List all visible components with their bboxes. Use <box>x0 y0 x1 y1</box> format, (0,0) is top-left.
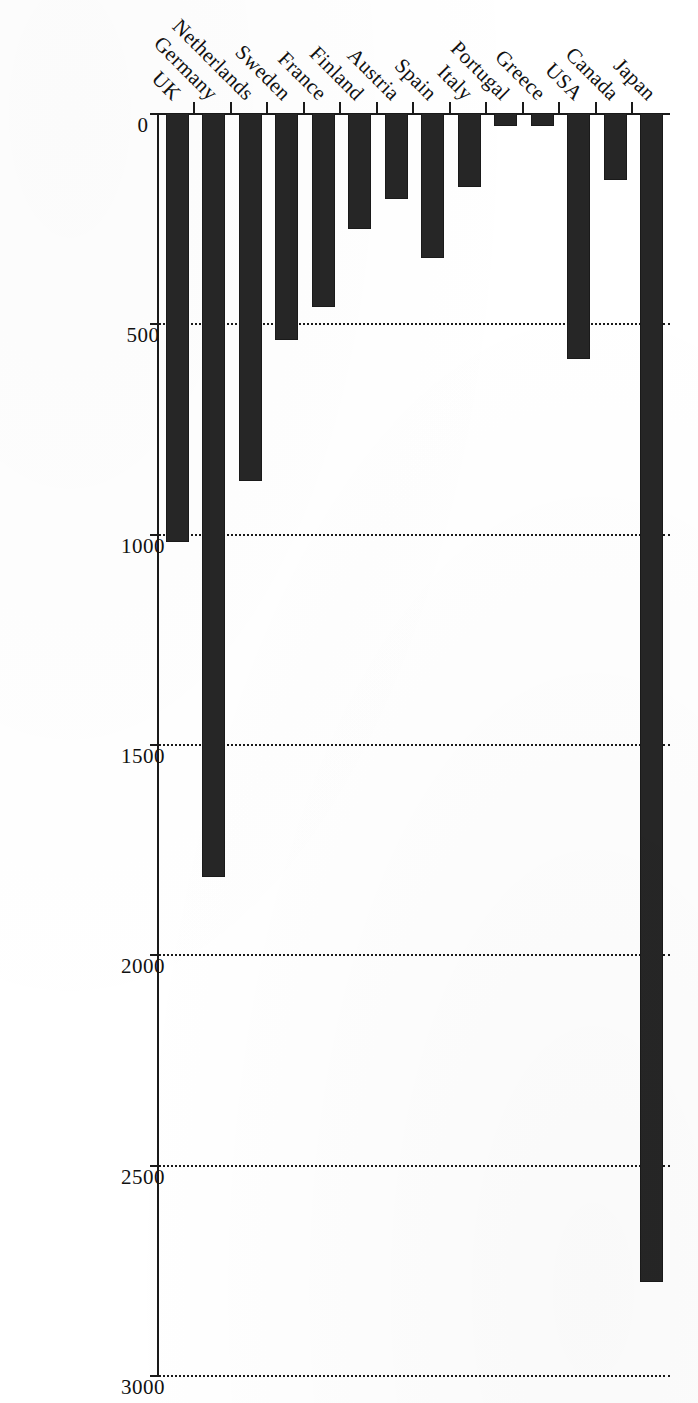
value-tick-label-500: 500 <box>127 323 160 348</box>
category-tick-4 <box>303 102 305 113</box>
bar-italy <box>458 113 481 187</box>
category-tick-7 <box>413 102 415 113</box>
rotated-chart-canvas: 300025002000150010005000 UKGermanyNether… <box>0 0 698 1403</box>
bar-chart: 300025002000150010005000 UKGermanyNether… <box>0 0 698 1403</box>
category-tick-12 <box>595 102 597 113</box>
bar-austria <box>385 113 408 199</box>
category-tick-8 <box>449 102 451 113</box>
bar-usa <box>567 113 590 359</box>
bar-germany <box>202 113 225 877</box>
chart-page: 300025002000150010005000 UKGermanyNether… <box>0 0 698 1403</box>
gridline-3000 <box>159 1375 670 1377</box>
category-tick-10 <box>522 102 524 113</box>
category-tick-13 <box>632 102 634 113</box>
value-tick-label-3000: 3000 <box>121 1375 165 1400</box>
gridline-2000 <box>159 954 670 956</box>
bar-sweden <box>275 113 298 340</box>
bar-spain <box>421 113 444 258</box>
bar-japan <box>640 113 663 1282</box>
category-tick-3 <box>267 102 269 113</box>
value-tick-label-1000: 1000 <box>121 534 165 559</box>
category-tick-2 <box>230 102 232 113</box>
bar-netherlands <box>239 113 262 481</box>
category-label-japan: Japan <box>608 53 661 106</box>
category-tick-9 <box>486 102 488 113</box>
gridline-1500 <box>159 744 670 746</box>
category-tick-1 <box>194 102 196 113</box>
value-tick-label-0: 0 <box>138 113 149 138</box>
value-tick-label-1500: 1500 <box>121 744 165 769</box>
bar-uk <box>166 113 189 542</box>
bar-canada <box>604 113 627 180</box>
bar-portugal <box>494 113 517 126</box>
bar-finland <box>348 113 371 229</box>
gridline-500 <box>159 323 670 325</box>
gridline-2500 <box>159 1165 670 1167</box>
bar-france <box>312 113 335 307</box>
category-tick-5 <box>340 102 342 113</box>
value-tick-label-2000: 2000 <box>121 954 165 979</box>
value-tick-label-2500: 2500 <box>121 1165 165 1190</box>
bar-greece <box>531 113 554 126</box>
plot-area <box>159 113 670 1375</box>
category-tick-11 <box>559 102 561 113</box>
gridline-1000 <box>159 534 670 536</box>
category-tick-6 <box>376 102 378 113</box>
